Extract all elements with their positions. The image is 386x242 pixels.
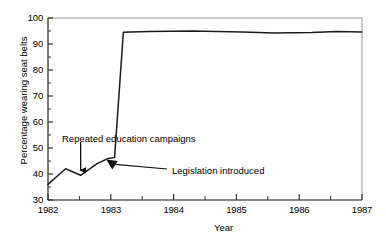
x-axis-title: Year (214, 222, 233, 233)
x-tick-label: 1987 (342, 204, 382, 215)
data-series-line (48, 31, 362, 184)
annotation-education-campaigns: Repeated education campaigns (62, 133, 196, 144)
seat-belt-line-chart: Percentage wearing seat belts Year Repea… (0, 0, 386, 242)
x-tick-label: 1986 (279, 204, 319, 215)
y-tick-label: 80 (0, 64, 43, 75)
y-tick-label: 60 (0, 116, 43, 127)
y-tick-label: 40 (0, 168, 43, 179)
y-tick-label: 50 (0, 142, 43, 153)
y-tick-label: 70 (0, 90, 43, 101)
annotation-legislation-introduced: Legislation introduced (172, 165, 264, 176)
x-tick-label: 1984 (154, 204, 194, 215)
y-tick-label: 100 (0, 12, 43, 23)
x-axis-ticks (48, 194, 362, 200)
x-tick-label: 1985 (216, 204, 256, 215)
x-tick-label: 1982 (28, 204, 68, 215)
x-tick-label: 1983 (91, 204, 131, 215)
legislation-leader-line (115, 164, 167, 169)
y-axis-ticks (48, 18, 53, 200)
y-tick-label: 90 (0, 38, 43, 49)
